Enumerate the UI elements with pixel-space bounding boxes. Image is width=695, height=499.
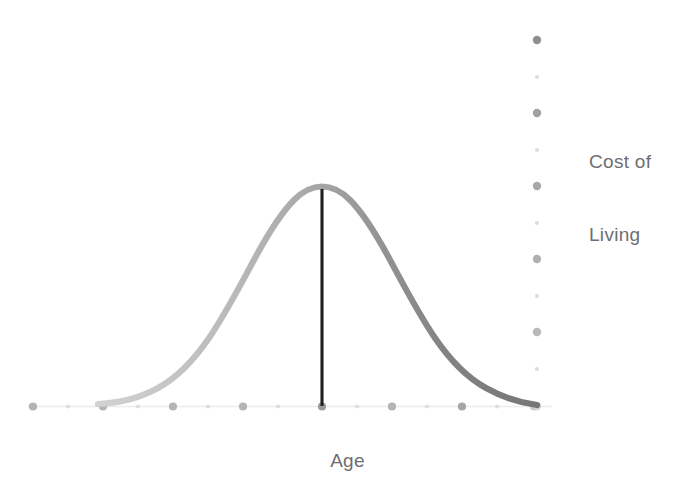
- x-axis-label: Age: [0, 449, 695, 473]
- y-axis-label: Cost of Living: [589, 101, 693, 296]
- watermark: [566, 44, 596, 84]
- y-axis-label-line-2: Living: [589, 223, 693, 247]
- y-axis-label-line-1: Cost of: [589, 150, 693, 174]
- distribution-curve: [98, 187, 537, 406]
- y-axis-tick-dots: [533, 36, 541, 410]
- bell-curve-chart: Age Cost of Living: [0, 0, 695, 499]
